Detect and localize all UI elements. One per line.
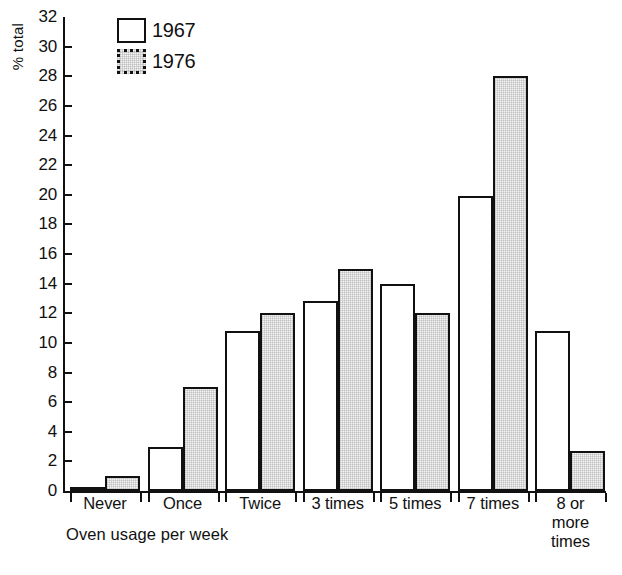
y-tick-label: 20	[38, 185, 57, 205]
legend-item-1976: 1976	[117, 46, 277, 77]
legend-label-1976: 1976	[152, 50, 195, 73]
bar-1967-1	[70, 487, 105, 491]
legend-item-1967: 1967	[117, 15, 277, 46]
legend-label-1967: 1967	[152, 19, 195, 42]
legend: 1967 1976	[117, 15, 277, 77]
y-tick-label: 14	[38, 274, 57, 294]
y-tick-label: 0	[48, 481, 57, 501]
x-axis-title: Oven usage per week	[66, 525, 228, 544]
bar-series-group	[63, 17, 606, 493]
bar-1967-7	[535, 331, 570, 491]
x-category-label-7: 8 or more times	[522, 494, 618, 551]
bar-1967-2	[148, 447, 183, 491]
bar-chart: % total 02468101214161820222426283032 Ne…	[0, 0, 622, 575]
legend-swatch-1976-icon	[117, 49, 146, 74]
y-tick-label: 22	[38, 155, 57, 175]
bar-1967-5	[380, 284, 415, 491]
plot-area: 02468101214161820222426283032	[63, 17, 606, 492]
bar-1976-4	[338, 269, 373, 491]
legend-swatch-1967-icon	[117, 18, 146, 43]
y-tick-label: 8	[48, 363, 57, 383]
y-tick-label: 12	[38, 303, 57, 323]
y-tick-label: 2	[48, 451, 57, 471]
y-tick-label: 32	[38, 7, 57, 27]
y-tick-label: 16	[38, 244, 57, 264]
y-tick-label: 18	[38, 214, 57, 234]
bar-1976-7	[570, 451, 605, 491]
y-tick-label: 30	[38, 37, 57, 57]
y-tick-label: 26	[38, 96, 57, 116]
y-tick-label: 10	[38, 333, 57, 353]
bar-1967-3	[225, 331, 260, 491]
y-tick-label: 24	[38, 126, 57, 146]
bar-1967-4	[303, 301, 338, 491]
y-tick-label: 28	[38, 66, 57, 86]
bar-1976-1	[105, 476, 140, 491]
y-axis-title: % total	[9, 12, 26, 82]
bar-1967-6	[458, 196, 493, 491]
bar-1976-6	[493, 76, 528, 491]
y-tick-label: 4	[48, 422, 57, 442]
y-tick-label: 6	[48, 392, 57, 412]
bar-1976-5	[415, 313, 450, 491]
bar-1976-3	[260, 313, 295, 491]
bar-1976-2	[183, 387, 218, 491]
